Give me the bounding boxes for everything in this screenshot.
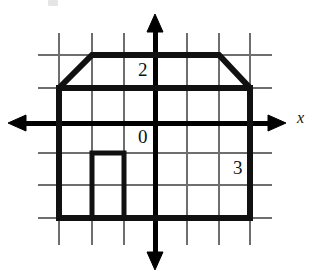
label-x-axis: x <box>297 110 304 126</box>
x-axis-arrow-left <box>8 115 26 131</box>
scan-artifact <box>48 0 58 6</box>
figure-canvas <box>0 0 312 280</box>
y-axis-arrow-up <box>147 14 163 32</box>
label-origin-0: 0 <box>138 127 148 146</box>
x-axis-arrow-right <box>268 115 286 131</box>
coordinate-grid-figure <box>0 0 312 280</box>
y-axis-arrow-down <box>147 252 163 270</box>
label-2: 2 <box>138 60 148 79</box>
label-3: 3 <box>233 158 243 177</box>
